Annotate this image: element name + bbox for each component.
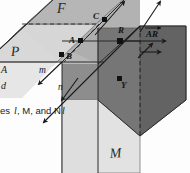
point-label-b: B [65,51,72,61]
region-dark-lower-left [62,64,98,100]
line-labels-group: m n [39,65,63,92]
line-label-m: m [39,65,46,75]
geometry-figure: P F M P F [0,0,190,173]
caption-fragment-d: , M, and N [17,105,61,116]
line-label-n: n [58,82,63,92]
point-label-c: C [93,11,100,21]
point-b-marker [59,52,64,57]
region-light-lower [0,62,57,98]
caption-fragment-a: A [0,64,8,75]
figure-canvas: P F M P F [0,0,190,173]
point-a-marker [78,38,83,43]
plane-m-label: M [108,145,123,161]
caption-fragment-e: l [62,105,65,116]
plane-m-triangle [62,100,98,173]
point-label-r: R [117,25,124,35]
vector-ar-label: AR [145,29,158,39]
point-c-marker [102,17,107,22]
region-dark-right [140,26,186,136]
point-label-a: A [68,35,75,45]
caption-fragment-c: es [0,105,10,116]
plane-p-label-top: P [10,44,21,59]
plane-f-label-top: F [56,1,66,16]
point-r-marker [117,38,123,44]
